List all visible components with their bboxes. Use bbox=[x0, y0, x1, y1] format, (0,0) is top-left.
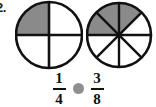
left-fraction-numerator: 1 bbox=[55, 71, 63, 87]
right-fraction-numerator: 3 bbox=[93, 71, 101, 87]
left-fraction: 1 4 bbox=[53, 71, 66, 107]
right-fraction-bar bbox=[91, 88, 104, 90]
right-circle-svg bbox=[86, 0, 154, 72]
left-fraction-denominator: 4 bbox=[55, 91, 63, 107]
right-fraction: 3 8 bbox=[91, 71, 104, 107]
fraction-circle-left-quarters bbox=[15, 0, 83, 76]
left-circle-svg bbox=[15, 0, 83, 72]
problem-number-label: 2. bbox=[0, 1, 6, 14]
fraction-comparison-problem: 2. bbox=[0, 0, 156, 106]
fraction-circle-right-eighths bbox=[86, 0, 154, 76]
fraction-comparison-row: 1 4 3 8 bbox=[0, 71, 156, 106]
right-fraction-denominator: 8 bbox=[93, 91, 101, 107]
comparison-operator-placeholder[interactable] bbox=[73, 83, 84, 94]
left-fraction-bar bbox=[53, 88, 66, 90]
